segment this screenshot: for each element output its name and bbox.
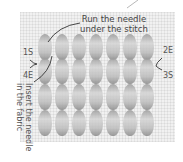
vertical-line-1: Insert the needle [24,83,33,151]
run-needle-callout: Run the needle under the stitch [80,14,148,34]
callout-line-1: Run the needle [80,14,148,24]
label-2e: 2E [163,46,173,55]
label-4e: 4E [23,71,33,80]
label-1s: 1S [23,48,33,57]
vertical-line-2: in the fabric [15,83,24,151]
label-3s: 3S [163,71,173,80]
callout-line-2: under the stitch [80,24,148,34]
insert-needle-callout: Insert the needle in the fabric [15,83,33,151]
